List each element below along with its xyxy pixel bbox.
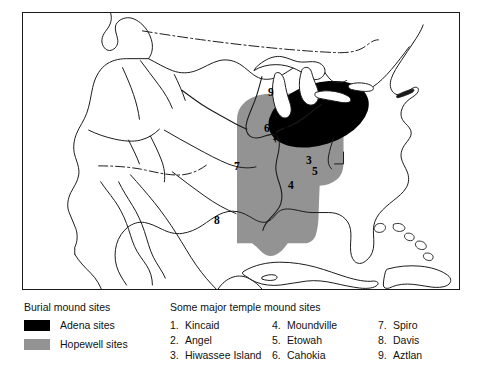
list-item: 6.Cahokia: [272, 349, 337, 364]
list-item: 9.Aztlan: [378, 349, 422, 364]
north-america-map: [23, 13, 459, 289]
adena-color-swatch: [24, 320, 50, 331]
site-name: Hiwassee Island: [185, 349, 261, 361]
list-item: 5.Etowah: [272, 334, 337, 349]
bahamas-islands: [374, 223, 433, 260]
site-name: Kincaid: [185, 319, 219, 331]
us-mexico-border: [99, 164, 208, 175]
site-marker-3: 3: [306, 155, 312, 167]
burial-legend-heading: Burial mound sites: [24, 301, 110, 313]
hispaniola-island: [383, 266, 450, 289]
site-number: 3.: [170, 349, 185, 361]
site-number: 1.: [170, 319, 185, 331]
site-number: 5.: [272, 334, 287, 346]
list-item: 7.Spiro: [378, 319, 422, 334]
temple-site-column-2: 4.Moundville 5.Etowah 6.Cahokia: [272, 319, 337, 364]
site-name: Etowah: [287, 334, 322, 346]
mound-sites-map-figure: 9 6 1 2 7 3 5 4 8 Burial mound sites Ade…: [0, 0, 481, 365]
hopewell-legend-label: Hopewell sites: [60, 338, 128, 350]
map-frame: 9 6 1 2 7 3 5 4 8: [22, 12, 460, 290]
site-marker-7: 7: [234, 161, 240, 173]
site-marker-1: 1: [272, 131, 278, 143]
hopewell-color-swatch: [24, 339, 50, 350]
temple-site-column-3: 7.Spiro 8.Davis 9.Aztlan: [378, 319, 422, 364]
site-name: Spiro: [393, 319, 418, 331]
site-name: Davis: [393, 334, 419, 346]
site-name: Angel: [185, 334, 212, 346]
site-number: 6.: [272, 349, 287, 361]
site-marker-5: 5: [312, 166, 318, 178]
adena-legend-label: Adena sites: [60, 319, 115, 331]
list-item: 3.Hiwassee Island: [170, 349, 261, 364]
site-marker-8: 8: [214, 215, 220, 227]
site-number: 7.: [378, 319, 393, 331]
site-number: 9.: [378, 349, 393, 361]
long-island: [396, 89, 414, 97]
mexico-west-coast: [131, 175, 217, 289]
list-item: 1.Kincaid: [170, 319, 261, 334]
list-item: 2.Angel: [170, 334, 261, 349]
site-name: Aztlan: [393, 349, 422, 361]
st-lawrence-river: [373, 47, 409, 87]
legend: Burial mound sites Adena sites Hopewell …: [0, 292, 481, 365]
us-canada-border: [142, 31, 378, 53]
site-number: 8.: [378, 334, 393, 346]
site-marker-4: 4: [288, 180, 294, 192]
site-number: 2.: [170, 334, 185, 346]
site-name: Cahokia: [287, 349, 326, 361]
cuba-island: [242, 262, 378, 288]
list-item: 4.Moundville: [272, 319, 337, 334]
site-marker-2: 2: [284, 120, 290, 132]
lake-superior: [254, 56, 325, 79]
list-item: 8.Davis: [378, 334, 422, 349]
site-name: Moundville: [287, 319, 337, 331]
western-interior-lines: [89, 61, 186, 182]
site-marker-9: 9: [268, 87, 274, 99]
temple-site-column-1: 1.Kincaid 2.Angel 3.Hiwassee Island: [170, 319, 261, 364]
site-marker-6: 6: [264, 123, 270, 135]
site-number: 4.: [272, 319, 287, 331]
temple-legend-heading: Some major temple mound sites: [170, 301, 321, 313]
